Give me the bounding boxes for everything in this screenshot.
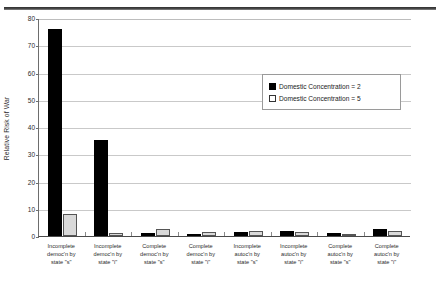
x-axis-label: Incompletedemoc'n bystate "s" [38, 242, 85, 282]
bar [109, 233, 123, 236]
x-axis-labels: Incompletedemoc'n bystate "s"Incompleted… [38, 242, 410, 282]
bar [327, 233, 341, 236]
top-divider-rule [4, 7, 436, 10]
bar [388, 231, 402, 236]
y-axis-tick-label: 0 [31, 234, 35, 241]
bar-group [318, 18, 365, 236]
y-axis-tick-label: 40 [28, 125, 35, 132]
bar-group [39, 18, 86, 236]
x-axis-label: Incompleteautoc'n bystate "i" [271, 242, 318, 282]
bar [63, 214, 77, 236]
legend-swatch-filled-square-icon [269, 83, 276, 90]
bar-group [86, 18, 133, 236]
bar [156, 229, 170, 236]
x-axis-label: Completedemoc'n bystate "s" [131, 242, 178, 282]
bar [249, 231, 263, 236]
bar-groups [39, 18, 411, 236]
legend-item: Domestic Concentration = 5 [269, 95, 394, 102]
bar [187, 234, 201, 236]
y-axis-tick-label: 60 [28, 70, 35, 77]
y-axis-tick-label: 20 [28, 179, 35, 186]
bar-group [272, 18, 319, 236]
legend-item-label: Domestic Concentration = 2 [279, 83, 361, 90]
y-axis-tick-label: 10 [28, 207, 35, 214]
x-axis-label: Incompletedemoc'n bystate "i" [85, 242, 132, 282]
bar [94, 140, 108, 236]
legend-item-label: Domestic Concentration = 5 [279, 95, 361, 102]
x-axis-label: Completeautoc'n bystate "i" [364, 242, 411, 282]
bar [48, 29, 62, 236]
bar-chart: Relative Risk of War 01020304050607080 I… [0, 14, 440, 283]
bar [373, 229, 387, 236]
bar [141, 233, 155, 236]
plot-area: 01020304050607080 [38, 19, 410, 237]
bar-group [225, 18, 272, 236]
bar-group [132, 18, 179, 236]
bar [280, 231, 294, 236]
bar [342, 234, 356, 236]
y-axis-title-text: Relative Risk of War [4, 96, 11, 159]
bar-group [365, 18, 412, 236]
y-axis-tick-mark [36, 237, 39, 238]
y-axis-tick-label: 30 [28, 152, 35, 159]
bar-group [179, 18, 226, 236]
legend-swatch-outlined-square-icon [269, 95, 276, 102]
y-axis-title: Relative Risk of War [2, 19, 12, 237]
bar [234, 232, 248, 236]
x-axis-label: Completedemoc'n bystate "i" [178, 242, 225, 282]
bar [295, 232, 309, 236]
y-axis-tick-label: 80 [28, 16, 35, 23]
bar [202, 232, 216, 236]
x-axis-label: Incompleteautoc'n bystate "s" [224, 242, 271, 282]
y-axis-tick-label: 70 [28, 43, 35, 50]
x-axis-label: Completeautoc'n bystate "s" [317, 242, 364, 282]
chart-legend: Domestic Concentration = 2Domestic Conce… [262, 74, 401, 110]
legend-item: Domestic Concentration = 2 [269, 83, 394, 90]
y-axis-tick-label: 50 [28, 98, 35, 105]
